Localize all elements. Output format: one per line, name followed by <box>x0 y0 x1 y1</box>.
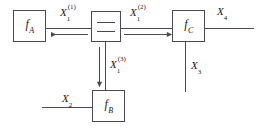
edge-label-x2-sub: 2 <box>69 101 73 109</box>
edge-label-x1-3: X1(3) <box>110 58 128 73</box>
edge-label-x1-1: X1(1) <box>60 6 78 21</box>
edge-label-x1-3-sup: (3) <box>118 55 126 63</box>
factor-node-fb: fB <box>92 90 125 122</box>
edge-label-x3: X3 <box>191 60 201 74</box>
edge-label-x1-2-sup: (2) <box>138 3 146 11</box>
factor-node-fa-label: fA <box>25 18 33 33</box>
equality-node-bar-top <box>97 22 115 23</box>
factor-graph-diagram: fA fC fB X1(1) X1(2) X1(3) X2 X3 X4 <box>0 0 264 128</box>
edge-label-x1-1-sup: (1) <box>68 3 76 11</box>
edge-label-x1-2-sub: 1 <box>137 15 141 23</box>
factor-node-fc-subscript: C <box>188 26 193 35</box>
edge-label-x3-sub: 3 <box>198 68 202 76</box>
factor-node-fb-subscript: B <box>108 106 113 115</box>
edge-label-x1-2: X1(2) <box>130 6 148 21</box>
edge-label-x2: X2 <box>62 93 72 107</box>
equality-node-bar-bottom <box>97 31 115 32</box>
factor-node-fc: fC <box>172 10 205 42</box>
factor-node-fb-label: fB <box>104 98 112 113</box>
edge-label-x1-3-sub: 1 <box>117 67 121 75</box>
factor-node-fc-label: fC <box>184 18 193 33</box>
edge-label-x1-1-sub: 1 <box>67 15 71 23</box>
edge-label-x4-sub: 4 <box>224 14 228 22</box>
factor-node-fa-subscript: A <box>29 26 34 35</box>
edge-label-x4: X4 <box>217 6 227 20</box>
equality-node <box>91 11 121 42</box>
factor-node-fa: fA <box>13 10 46 42</box>
